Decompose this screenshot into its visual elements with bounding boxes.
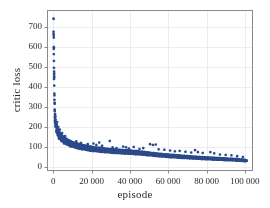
critic-loss-figure: 0100200300400500600700 020 00040 00060 0… <box>0 0 270 208</box>
y-tick-label: 100 <box>6 141 42 151</box>
y-axis-title: critic loss <box>10 42 22 138</box>
x-tick-label: 100 000 <box>218 176 270 186</box>
y-tick-label: 0 <box>6 161 42 171</box>
y-tick-label: 700 <box>6 21 42 31</box>
x-axis-title: episode <box>0 188 270 200</box>
